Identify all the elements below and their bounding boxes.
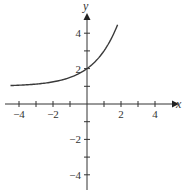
x-axis: −4−224 x	[5, 97, 182, 120]
y-axis-arrow-icon	[84, 13, 91, 20]
x-tick-label: −2	[47, 108, 59, 120]
y-axis-label: y	[82, 0, 89, 13]
function-curve	[11, 25, 118, 86]
y-tick-label: −4	[69, 169, 81, 181]
y-tick-label: 4	[76, 27, 82, 39]
y-tick-label: −2	[69, 133, 81, 145]
x-tick-label: −4	[13, 108, 25, 120]
x-axis-label: x	[175, 97, 182, 111]
y-axis: 42−2−4 y	[69, 0, 90, 190]
x-tick-label: 4	[152, 108, 158, 120]
x-tick-label: 2	[118, 108, 124, 120]
graph: −4−224 x 42−2−4 y	[0, 0, 182, 195]
x-tick-labels: −4−224	[13, 108, 158, 120]
